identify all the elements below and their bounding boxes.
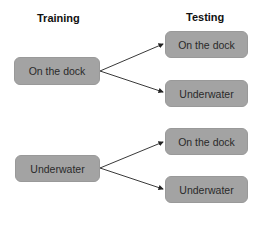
testing-node-underwater-2: Underwater <box>165 176 248 203</box>
arrow-dock-to-dock <box>100 44 163 71</box>
arrow-dock-to-underwater <box>100 71 163 92</box>
testing-node-on-the-dock-1: On the dock <box>165 31 248 58</box>
arrow-underwater-to-dock <box>100 142 163 168</box>
testing-node-underwater-1: Underwater <box>165 80 248 107</box>
training-node-underwater: Underwater <box>15 155 100 182</box>
arrow-underwater-to-underwater <box>100 168 163 189</box>
training-node-on-the-dock: On the dock <box>14 57 100 85</box>
testing-node-on-the-dock-2: On the dock <box>165 128 248 155</box>
